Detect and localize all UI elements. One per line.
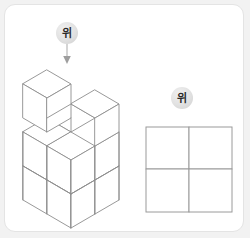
grid-cell[interactable]: [146, 127, 189, 169]
grid-cell[interactable]: [189, 127, 232, 169]
top-view-badge-left: 위: [56, 22, 78, 44]
top-view-badge-left-label: 위: [62, 28, 72, 39]
grid-cell[interactable]: [146, 169, 189, 212]
top-view-grid: [0, 0, 250, 238]
grid-cell[interactable]: [189, 169, 232, 212]
screenshot-root: 위 위: [0, 0, 250, 238]
top-view-badge-right-label: 위: [177, 93, 187, 104]
illustration-stage: 위 위: [0, 0, 250, 238]
top-view-badge-right: 위: [171, 87, 193, 109]
